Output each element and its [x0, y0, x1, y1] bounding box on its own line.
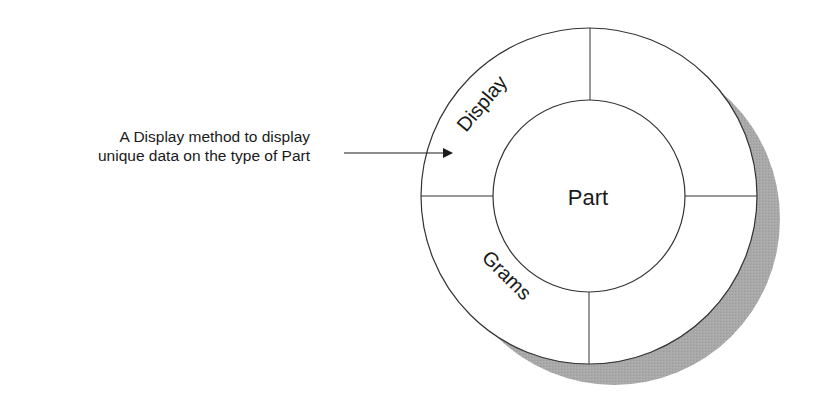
object-diagram: Part Display Grams: [0, 0, 814, 403]
center-label: Part: [568, 185, 608, 210]
